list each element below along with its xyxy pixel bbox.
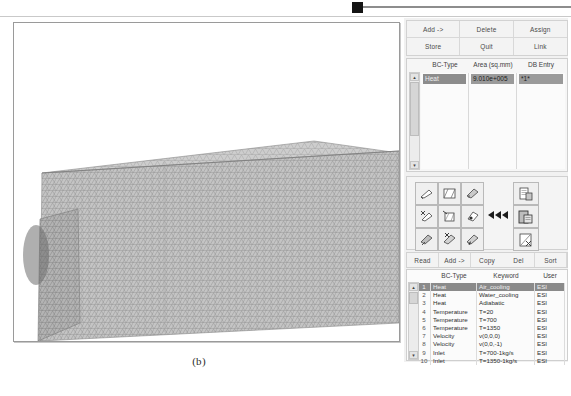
mesh-canvas[interactable] [14, 23, 399, 341]
row-keyword: Air_cooling [477, 283, 535, 291]
del-button[interactable]: Del [503, 253, 535, 267]
surface-shade-icon[interactable] [461, 182, 484, 205]
row-user: ESI [535, 283, 565, 291]
row-bctype: Velocity [431, 332, 477, 340]
table-row[interactable]: 2 Heat Water_cooling ESI [418, 291, 565, 299]
row-index: 7 [418, 332, 431, 340]
table-row[interactable]: 7 Velocity v(0,0,0) ESI [418, 332, 565, 340]
bc-list-scrollbar[interactable]: ▴ ▾ [409, 72, 420, 170]
clear-page-icon[interactable] [513, 228, 539, 251]
row-bctype: Heat [431, 283, 477, 291]
row-bctype: Velocity [431, 340, 477, 348]
row-bctype: Heat [431, 291, 477, 299]
table-row[interactable]: 10 Inlet T=1350-1kg/s ESI [418, 357, 565, 365]
row-bctype: Inlet [431, 349, 477, 357]
surface-edit-icon[interactable] [438, 205, 461, 228]
surface-box-icon[interactable] [438, 182, 461, 205]
row-keyword: T=20 [477, 308, 535, 316]
mesh-svg [14, 23, 399, 341]
row-user: ESI [535, 332, 565, 340]
bc-list-body[interactable]: Heat 9.010e+005 *1* [421, 73, 565, 169]
db-table-scroll-down-icon[interactable]: ▾ [409, 351, 418, 359]
db-table[interactable]: BC-Type Keyword User 1 Heat Air_cooling … [406, 269, 568, 361]
copy-button[interactable]: Copy [471, 253, 503, 267]
db-table-scroll-thumb[interactable] [409, 292, 418, 304]
row-keyword: T=1350 [477, 324, 535, 332]
header-rule [352, 6, 571, 8]
surface-pick-icon[interactable] [415, 182, 438, 205]
row-bctype: Temperature [431, 324, 477, 332]
table-row[interactable]: 3 Heat Adiabatic ESI [418, 299, 565, 307]
quit-button[interactable]: Quit [460, 38, 513, 55]
bc-list-scroll-down-icon[interactable]: ▾ [410, 161, 419, 169]
add-button[interactable]: Add -> [407, 21, 460, 38]
table-row[interactable]: 4 Temperature T=20 ESI [418, 308, 565, 316]
row-index: 9 [418, 349, 431, 357]
db-col-user: User [535, 272, 565, 282]
delete-button[interactable]: Delete [460, 21, 513, 38]
db-table-body[interactable]: 1 Heat Air_cooling ESI 2 Heat Water_cool… [418, 283, 565, 359]
bc-list-column-area: 9.010e+005 [469, 73, 517, 169]
db-table-scrollbar[interactable]: ▴ ▾ [408, 282, 419, 360]
row-user: ESI [535, 299, 565, 307]
surface-fill-icon[interactable] [415, 228, 438, 251]
bc-list[interactable]: BC-Type Area (sq.mm) DB Entry ▸ Heat 9.0… [406, 58, 568, 172]
row-keyword: T=1350-1kg/s [477, 357, 535, 365]
row-user: ESI [535, 308, 565, 316]
mesh-front-face [40, 151, 399, 341]
row-user: ESI [535, 349, 565, 357]
3d-mesh-viewport[interactable] [13, 22, 400, 342]
row-index: 5 [418, 316, 431, 324]
row-index: 4 [418, 308, 431, 316]
geometry-toolbar [406, 176, 568, 250]
bc-list-cell-type[interactable]: Heat [423, 74, 466, 84]
row-user: ESI [535, 316, 565, 324]
row-bctype: Heat [431, 299, 477, 307]
table-row[interactable]: 9 Inlet T=700-1kg/s ESI [418, 349, 565, 357]
paste-page-icon[interactable] [513, 205, 539, 228]
surface-cut-icon[interactable] [415, 205, 438, 228]
triple-left-arrow-icon[interactable] [487, 210, 509, 220]
row-user: ESI [535, 291, 565, 299]
table-row[interactable]: 1 Heat Air_cooling ESI [418, 283, 565, 291]
db-table-scroll-up-icon[interactable]: ▴ [409, 283, 418, 291]
link-button[interactable]: Link [514, 38, 567, 55]
panel-top-buttons: Add -> Delete Assign Store Quit Link [406, 20, 568, 56]
volume-point-icon[interactable] [461, 205, 484, 228]
db-col-bctype: BC-Type [431, 272, 477, 282]
table-row[interactable]: 8 Velocity v(0,0,-1) ESI [418, 340, 565, 348]
bc-list-cell-area[interactable]: 9.010e+005 [471, 74, 514, 84]
row-index: 6 [418, 324, 431, 332]
bc-list-col-db: DB Entry [517, 61, 565, 72]
bc-list-col-area: Area (sq.mm) [469, 61, 517, 72]
bc-list-scroll-up-icon[interactable]: ▴ [410, 73, 419, 81]
bc-list-header: BC-Type Area (sq.mm) DB Entry [421, 61, 565, 72]
row-bctype: Inlet [431, 357, 477, 365]
store-button[interactable]: Store [407, 38, 460, 55]
header-rule-secondary [0, 16, 571, 17]
row-index: 8 [418, 340, 431, 348]
bc-list-column-db: *1* [517, 73, 565, 169]
row-index: 10 [418, 357, 431, 365]
read-button[interactable]: Read [407, 253, 439, 267]
assign-button[interactable]: Assign [514, 21, 567, 38]
db-col-keyword: Keyword [477, 272, 535, 282]
db-table-header: BC-Type Keyword User [431, 272, 565, 282]
copy-page-icon[interactable] [513, 182, 539, 205]
bc-list-col-type: BC-Type [421, 61, 469, 72]
table-row[interactable]: 5 Temperature T=700 ESI [418, 316, 565, 324]
bc-list-scroll-thumb[interactable] [410, 82, 419, 136]
bc-panel: Add -> Delete Assign Store Quit Link BC-… [404, 18, 568, 362]
bc-list-cell-db[interactable]: *1* [519, 74, 563, 84]
row-user: ESI [535, 340, 565, 348]
figure-caption: (b) [0, 355, 398, 367]
row-keyword: Adiabatic [477, 299, 535, 307]
surface-assign-icon[interactable] [461, 228, 484, 251]
bc-list-column-type: Heat [421, 73, 469, 169]
sort-button[interactable]: Sort [535, 253, 567, 267]
header-square-marker [352, 2, 363, 13]
table-add-button[interactable]: Add -> [439, 253, 471, 267]
row-user: ESI [535, 357, 565, 365]
surface-delete-icon[interactable] [438, 228, 461, 251]
table-row[interactable]: 6 Temperature T=1350 ESI [418, 324, 565, 332]
